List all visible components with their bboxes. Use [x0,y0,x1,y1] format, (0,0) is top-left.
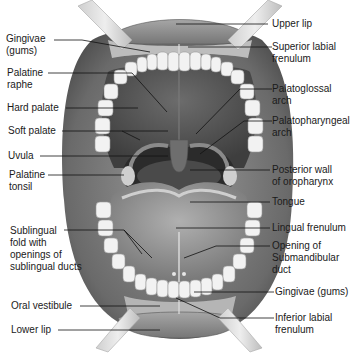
label-gingivae-lower: Gingivae (gums) [275,286,348,298]
label-line: frenulum [272,53,336,65]
label-line: Inferior labial [275,312,332,324]
label-lower-lip: Lower lip [11,324,51,336]
label-line: raphe [7,79,43,91]
label-superior-labial-frenulum: Superior labial frenulum [272,41,336,65]
label-line: Lower lip [11,324,51,336]
label-line: Hard palate [7,102,59,114]
label-line: Sublingual [10,225,82,237]
label-palatine-tonsil: Palatine tonsil [9,169,45,193]
duct-opening-left [172,272,176,276]
label-palatopharyngeal-arch: Palatopharyngeal arch [272,115,350,139]
label-line: Submandibular [272,252,339,264]
label-line: Palatoglossal [272,83,331,95]
label-oral-vestibule: Oral vestibule [11,300,72,312]
label-soft-palate: Soft palate [8,125,56,137]
label-posterior-wall-oropharynx: Posterior wall of oropharynx [272,164,333,188]
label-line: Uvula [8,150,34,162]
oral-cavity-diagram: Gingivae (gums) Palatine raphe Hard pala… [0,0,356,356]
label-line: Gingivae [6,33,45,45]
label-line: Upper lip [272,18,312,30]
label-line: tonsil [9,181,45,193]
label-line: openings of [10,249,82,261]
label-line: Palatine [9,169,45,181]
label-line: Palatopharyngeal [272,115,350,127]
label-line: Opening of [272,240,339,252]
duct-opening-right [182,272,186,276]
label-line: duct [272,264,339,276]
label-line: arch [272,95,331,107]
label-line: sublingual ducts [10,261,82,273]
label-line: Lingual frenulum [272,222,346,234]
label-inferior-labial-frenulum: Inferior labial frenulum [275,312,332,336]
label-palatoglossal-arch: Palatoglossal arch [272,83,331,107]
label-line: Oral vestibule [11,300,72,312]
left-tonsil [121,166,135,186]
label-line: Posterior wall [272,164,333,176]
label-line: Gingivae (gums) [275,286,348,298]
label-line: arch [272,127,350,139]
label-line: of oropharynx [272,176,333,188]
label-line: Soft palate [8,125,56,137]
label-line: frenulum [275,324,332,336]
label-line: (gums) [6,45,45,57]
label-tongue: Tongue [272,196,305,208]
label-uvula: Uvula [8,150,34,162]
label-line: Superior labial [272,41,336,53]
label-sublingual-fold: Sublingual fold with openings of subling… [10,225,82,273]
label-line: fold with [10,237,82,249]
right-tonsil [223,166,237,186]
label-line: Tongue [272,196,305,208]
label-opening-submandibular-duct: Opening of Submandibular duct [272,240,339,276]
label-palatine-raphe: Palatine raphe [7,67,43,91]
label-line: Palatine [7,67,43,79]
label-hard-palate: Hard palate [7,102,59,114]
label-upper-lip: Upper lip [272,18,312,30]
label-gingivae-upper: Gingivae (gums) [6,33,45,57]
label-lingual-frenulum: Lingual frenulum [272,222,346,234]
